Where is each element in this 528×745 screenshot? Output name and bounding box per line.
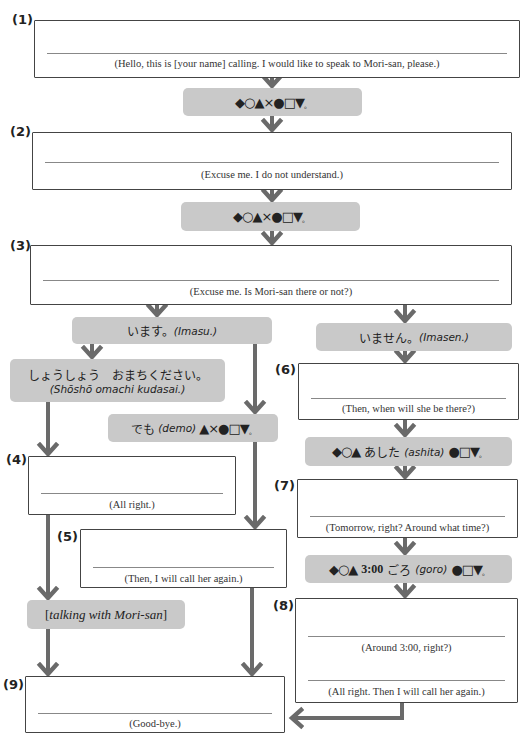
caption: (Then, when will she be there?)	[299, 403, 518, 414]
garbled-symbols-post: ●□▼。	[451, 562, 488, 577]
answer-line-2[interactable]	[308, 680, 505, 681]
japanese-text: しょうしょう おまちください。	[28, 366, 208, 383]
japanese-text: いません。	[359, 329, 419, 346]
step-number-3: (3)	[10, 238, 31, 253]
answer-box-9[interactable]: (Good-bye.)	[25, 676, 285, 733]
garbled-symbols: ◆○▲×●□▼。	[235, 95, 310, 110]
response-goro: ◆○▲ 3:00 ごろ (goro) ●□▼。	[305, 555, 512, 583]
romaji-text: (Imasu.)	[174, 325, 217, 337]
response-imasu: います。 (Imasu.)	[72, 317, 272, 344]
garbled-symbols-pre: ◆○▲	[329, 562, 357, 577]
japanese-text: あした	[364, 443, 400, 460]
romaji-text: (Imasen.)	[419, 331, 469, 343]
garbled-symbols-pre: ◆○▲	[332, 444, 360, 459]
caption: (Excuse me. I do not understand.)	[33, 169, 511, 180]
garbled-symbols: ▲×●□▼。	[199, 421, 255, 436]
step-number-9: (9)	[3, 677, 24, 692]
step-number-8: (8)	[273, 598, 294, 613]
caption: (Tomorrow, right? Around what time?)	[298, 522, 517, 533]
step-number-2: (2)	[10, 124, 31, 139]
answer-box-8[interactable]: (Around 3:00, right?) (All right. Then I…	[295, 598, 518, 703]
garbled-symbols: ◆○▲×●□▼。	[233, 209, 308, 224]
answer-line[interactable]	[47, 53, 507, 54]
answer-box-2[interactable]: (Excuse me. I do not understand.)	[32, 132, 512, 190]
response-imasen: いません。 (Imasen.)	[316, 323, 512, 351]
caption: (Good-bye.)	[26, 718, 284, 729]
answer-line[interactable]	[310, 516, 505, 517]
romaji-text: (demo)	[158, 422, 196, 434]
caption-2: (All right. Then I will call her again.)	[296, 686, 517, 697]
garbled-response-1: ◆○▲×●□▼。	[183, 88, 362, 116]
time-text: 3:00	[361, 562, 383, 577]
answer-box-6[interactable]: (Then, when will she be there?)	[298, 363, 519, 420]
japanese-text: います。	[127, 322, 174, 339]
japanese-text: ごろ	[387, 561, 411, 578]
answer-line[interactable]	[45, 162, 499, 163]
answer-line[interactable]	[38, 713, 272, 714]
step-number-6: (6)	[275, 362, 296, 377]
answer-box-3[interactable]: (Excuse me. Is Mori-san there or not?)	[30, 245, 512, 305]
garbled-symbols-post: ●□▼。	[448, 444, 485, 459]
answer-box-7[interactable]: (Tomorrow, right? Around what time?)	[297, 479, 518, 538]
answer-line[interactable]	[41, 493, 223, 494]
response-demo: でも (demo) ▲×●□▼。	[108, 414, 278, 442]
romaji-text: (ashita)	[404, 446, 444, 458]
response-shosho-omachi: しょうしょう おまちください。 (Shōshō omachi kudasai.)	[10, 359, 225, 402]
note-talking-with-mori-san: [ talking with Mori-san ]	[27, 600, 185, 629]
japanese-text: でも	[131, 420, 155, 437]
answer-line[interactable]	[43, 280, 499, 281]
garbled-response-2: ◆○▲×●□▼。	[181, 202, 360, 231]
step-number-7: (7)	[274, 478, 295, 493]
caption-1: (Around 3:00, right?)	[296, 642, 517, 653]
answer-box-4[interactable]: (All right.)	[28, 456, 236, 515]
step-number-1: (1)	[12, 12, 33, 27]
answer-line[interactable]	[311, 398, 506, 399]
caption: (All right.)	[29, 499, 235, 510]
answer-line-1[interactable]	[308, 636, 505, 637]
bracket-close: ]	[163, 607, 167, 623]
answer-box-5[interactable]: (Then, I will call her again.)	[80, 529, 287, 588]
step-number-5: (5)	[57, 529, 78, 544]
step-number-4: (4)	[6, 452, 27, 467]
romaji-text: (Shōshō omachi kudasai.)	[50, 383, 186, 395]
romaji-text: (goro)	[415, 563, 447, 575]
caption: (Hello, this is [your name] calling. I w…	[35, 58, 519, 69]
answer-line[interactable]	[93, 567, 274, 568]
note-text: talking with Mori-san	[49, 607, 162, 623]
answer-box-1[interactable]: (Hello, this is [your name] calling. I w…	[34, 20, 520, 78]
caption: (Then, I will call her again.)	[81, 573, 286, 584]
caption: (Excuse me. Is Mori-san there or not?)	[31, 286, 511, 297]
response-ashita: ◆○▲ あした (ashita) ●□▼。	[305, 437, 512, 466]
